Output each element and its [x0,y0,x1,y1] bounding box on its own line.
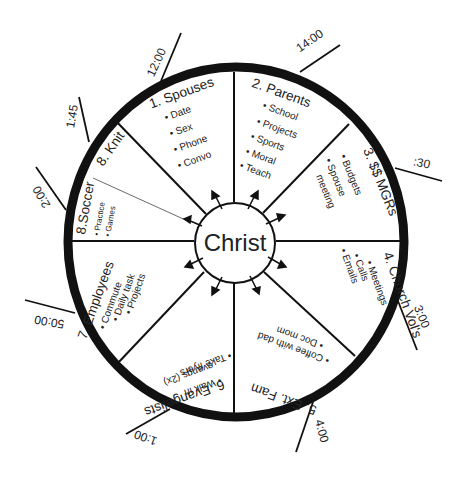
arrow-icon [266,214,285,224]
segment-items: • Budgets • Spouse meeting [314,153,364,210]
segment-money-managers: 3. $$ MGRs • Budgets • Spouse meeting [314,146,401,219]
time-label-1-00: 1:00 [132,427,159,448]
priority-wheel-diagram: 12:00 14:00 :30 3:00 4:00 1:00 50:00 2:0… [0,0,467,481]
arrow-icon [184,216,202,226]
tick-1-45 [79,97,89,142]
time-label-1-45: 1:45 [63,103,81,129]
time-label-30: :30 [412,155,432,172]
center-label: Christ [204,229,267,256]
time-label-50-00: 50:00 [33,312,65,331]
time-label-4-00: 4:00 [312,418,332,444]
list-item: • Date [163,103,193,123]
segment-items: • Practice • Games [92,201,117,238]
segment-items: • Date • Sex • Phone • Convo [163,103,213,171]
segment-items: • Coffee with dad • Doc mom [256,324,331,366]
segment-parents: 2. Parents • School • Projects • Sports … [238,75,313,181]
segment-items: • School • Projects • Sports • Moral • T… [238,100,299,182]
time-label-14-00: 14:00 [293,26,326,55]
tick-50-00 [25,300,75,313]
segment-extended-family: 5. Ext. Fam • Coffee with dad • Doc mom [248,324,330,418]
segment-employees: 7. Employees • Commute • Daily task • Pr… [75,259,148,341]
list-item: • Sex [168,120,194,138]
time-label-12-00: 12:00 [144,45,170,78]
tick-30 [395,168,442,181]
